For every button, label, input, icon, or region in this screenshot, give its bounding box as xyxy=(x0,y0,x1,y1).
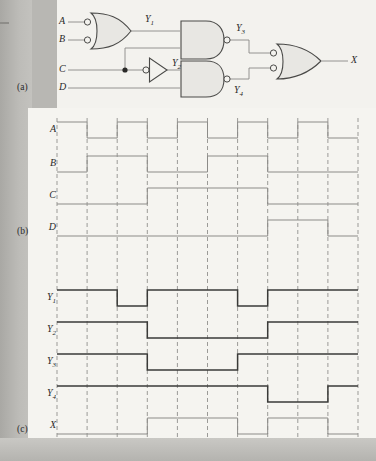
circuit-label-x: X xyxy=(351,54,357,65)
timing-label-b: B xyxy=(44,157,56,168)
circuit-label-c: C xyxy=(59,63,66,74)
bubble-input-b xyxy=(84,37,90,43)
timing-label-a: A xyxy=(44,123,56,134)
timing-label-y4: Y4 xyxy=(44,387,56,401)
timing-label-y2: Y2 xyxy=(44,323,56,337)
timing-label-y1: Y1 xyxy=(44,291,56,305)
gate-body-or1 xyxy=(91,13,131,49)
gate-or-inverted-inputs-x xyxy=(270,44,321,79)
gate-nand-y3 xyxy=(181,21,230,59)
gate-body-or5 xyxy=(277,44,321,79)
circuit-label-b: B xyxy=(59,33,65,44)
bubble-output-y4 xyxy=(224,76,230,82)
timing-label-d: D xyxy=(44,221,56,232)
figure-page: A B C D Y1 Y2 Y3 Y4 X (a) (b) (c) ABCDY1… xyxy=(0,0,376,461)
circuit-label-y4: Y4 xyxy=(234,84,243,98)
circuit-label-y3: Y3 xyxy=(236,22,245,36)
waveform-a xyxy=(57,122,358,138)
timing-label-x: X xyxy=(44,419,56,430)
panel-c-label: (c) xyxy=(17,424,28,434)
timing-label-c: C xyxy=(44,189,56,200)
bubble-input-y4 xyxy=(270,65,276,71)
junction-dot-c xyxy=(122,67,127,72)
timing-diagram xyxy=(0,110,376,460)
bubble-input-inverter xyxy=(143,67,149,73)
gate-nand-y4 xyxy=(181,61,230,97)
waveform-b xyxy=(57,156,358,172)
gate-body-nand4 xyxy=(181,61,224,97)
panel-a-label: (a) xyxy=(17,82,28,92)
gate-inverter-y2 xyxy=(143,58,167,82)
bubble-input-a xyxy=(84,19,90,25)
gate-body-inverter xyxy=(150,58,168,82)
bubble-output-y3 xyxy=(224,37,230,43)
circuit-label-y2: Y2 xyxy=(172,57,181,71)
circuit-label-d: D xyxy=(59,81,66,92)
circuit-label-y1: Y1 xyxy=(145,13,154,27)
circuit-label-a: A xyxy=(59,15,65,26)
bubble-input-y3 xyxy=(270,50,276,56)
logic-circuit-diagram xyxy=(0,0,376,110)
panel-b-label: (b) xyxy=(17,226,28,236)
gate-or-inverted-inputs-y1 xyxy=(84,13,131,49)
timing-label-y3: Y3 xyxy=(44,355,56,369)
gate-body-nand3 xyxy=(181,21,224,59)
